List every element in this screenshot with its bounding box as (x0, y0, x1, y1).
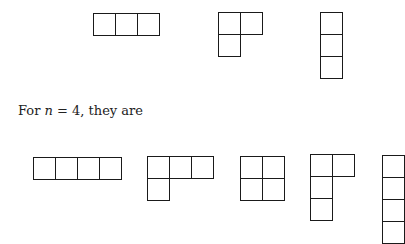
diagram-cell (310, 176, 333, 199)
diagram-cell (218, 12, 241, 35)
diagram-cell (55, 157, 78, 180)
diagram-cell (382, 199, 405, 222)
diagram-cell (382, 155, 405, 178)
diagram-cell (382, 177, 405, 200)
diagram-cell (147, 178, 170, 201)
diagram-cell (320, 56, 343, 79)
diagram-cell (115, 13, 138, 36)
caption-text: For n = 4, they are (18, 103, 143, 118)
diagram-cell (240, 178, 263, 201)
diagram-cell (218, 34, 241, 57)
diagram-cell (99, 157, 122, 180)
diagram-cell (191, 156, 214, 179)
math-variable-n: n (44, 103, 52, 118)
diagram-cell (320, 34, 343, 57)
diagram-cell (332, 154, 355, 177)
diagram-cell (137, 13, 160, 36)
diagram-cell (147, 156, 170, 179)
diagram-cell (169, 156, 192, 179)
diagram-cell (262, 156, 285, 179)
diagram-cell (240, 156, 263, 179)
diagram-cell (310, 198, 333, 221)
diagram-cell (33, 157, 56, 180)
diagram-cell (93, 13, 116, 36)
diagram-cell (310, 154, 333, 177)
diagram-cell (240, 12, 263, 35)
diagram-cell (320, 12, 343, 35)
diagram-cell (262, 178, 285, 201)
diagram-cell (77, 157, 100, 180)
diagram-cell (382, 221, 405, 244)
